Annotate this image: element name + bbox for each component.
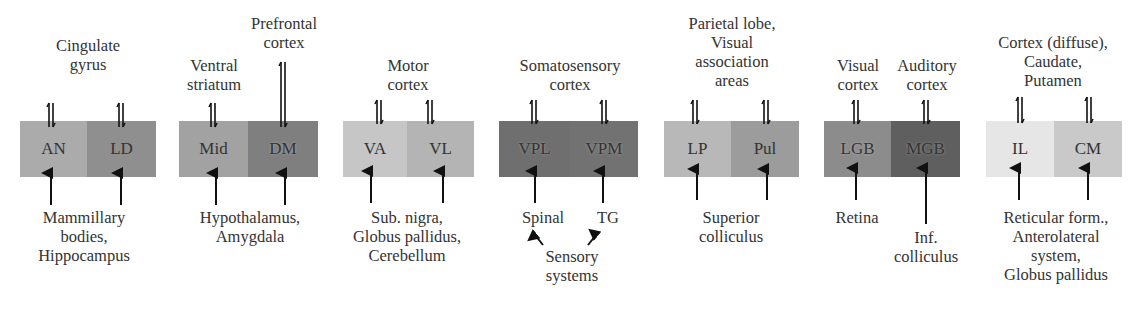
- double-arrow-icon: [852, 100, 860, 124]
- double-arrow-icon: [691, 100, 699, 124]
- arrows-layer: [0, 0, 1143, 309]
- double-arrow-icon: [209, 103, 217, 127]
- bidirectional-arrows: [47, 62, 1093, 127]
- double-arrow-icon: [600, 100, 608, 124]
- double-arrow-icon: [1016, 97, 1024, 123]
- double-arrow-icon: [922, 100, 930, 124]
- double-arrow-icon: [530, 100, 538, 124]
- double-arrow-icon: [762, 100, 770, 124]
- arrow-up-icon: [588, 235, 596, 245]
- double-arrow-icon: [117, 103, 125, 127]
- double-arrow-icon: [426, 100, 434, 124]
- double-arrow-icon: [47, 103, 55, 127]
- arrow-up-icon: [535, 235, 543, 245]
- double-arrow-icon: [375, 100, 383, 124]
- input-arrows: [51, 168, 1088, 245]
- double-arrow-icon: [279, 62, 287, 127]
- double-arrow-icon: [1085, 97, 1093, 123]
